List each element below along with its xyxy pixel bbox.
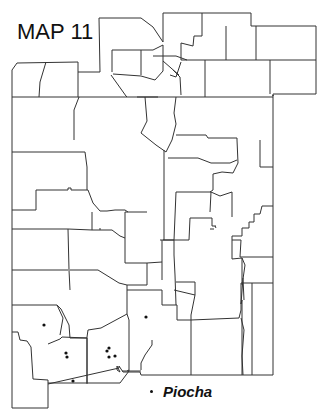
locality-dot [42,323,45,326]
locality-dot [105,349,108,352]
locality-dot [65,355,68,358]
locality-dot [71,379,74,382]
legend-dot-icon [150,390,153,393]
county-map [0,0,326,419]
map-title: MAP 11 [17,19,93,45]
locality-dot [107,346,110,349]
locality-dot [64,351,67,354]
locality-dot [113,354,116,357]
locality-dot [107,355,110,358]
legend: Piocha [150,381,212,401]
locality-dot [144,315,147,318]
legend-label-piocha: Piocha [163,383,212,400]
